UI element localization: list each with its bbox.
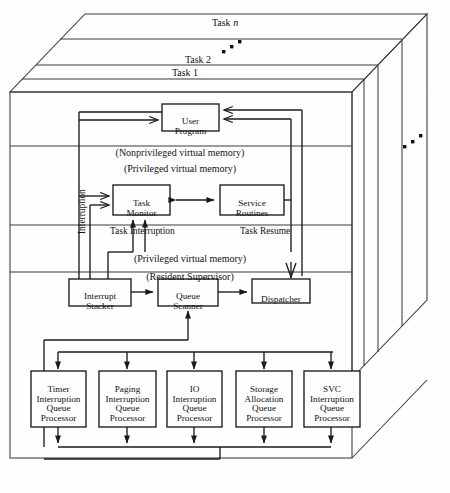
service-routines-box: ServiceRoutines [220, 189, 284, 218]
interrupt-stacker-box: InterruptStacker [69, 282, 131, 311]
task-interruption-label: Task Interruption [110, 227, 230, 237]
interruption-label: Interruption [78, 189, 88, 234]
io-interruption-queue-processor-box: IOInterruptionQueueProcessor [167, 375, 222, 424]
task-resume-label: Task Resume [240, 227, 320, 237]
storage-allocation-queue-processor-box: StorageAllocationQueueProcessor [236, 375, 292, 424]
user-program-box: UserProgram [162, 107, 219, 136]
task-2-label: Task 2 [0, 55, 396, 66]
nonprivileged-virtual-memory-label: (Nonprivileged virtual memory) [60, 148, 300, 159]
paging-interruption-queue-processor-box: PagingInterruptionQueueProcessor [99, 375, 156, 424]
dispatcher-box: Dispatcher [252, 285, 310, 305]
resident-supervisor-label: (Resident Supervisor) [70, 272, 310, 283]
task-monitor-box: TaskMonitor [113, 189, 170, 218]
vertical-ellipsis-top [222, 40, 241, 53]
task-1-label: Task 1 [0, 68, 370, 79]
timer-interruption-queue-processor-box: TimerInterruptionQueueProcessor [31, 375, 86, 424]
queue-scanner-box: QueueScanner [158, 282, 218, 311]
svc-interruption-queue-processor-box: SVCInterruptionQueueProcessor [304, 375, 360, 424]
privileged-virtual-memory-lower-label: (Privileged virtual memory) [70, 254, 310, 265]
task-n-label: Task n [0, 18, 450, 29]
diagram-canvas: Task n Task 2 Task 1 (Nonprivileged virt… [0, 0, 450, 493]
vertical-ellipsis-right [403, 134, 422, 148]
privileged-virtual-memory-upper-label: (Privileged virtual memory) [60, 164, 300, 175]
